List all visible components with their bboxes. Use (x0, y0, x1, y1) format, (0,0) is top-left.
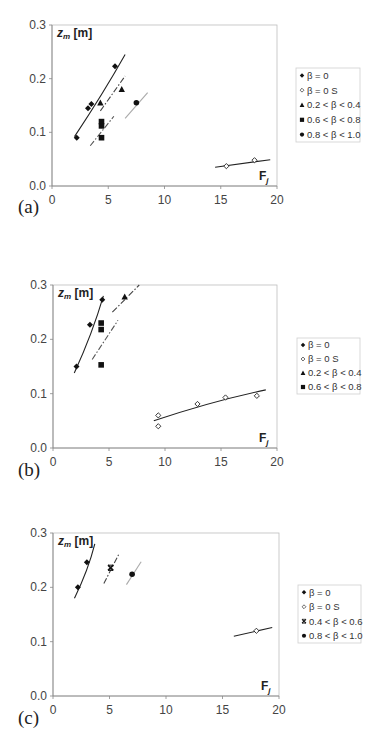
y-tick-label: 0.1 (30, 387, 47, 401)
data-point (254, 393, 259, 398)
y-tick-label: 0.2 (29, 72, 46, 86)
y-axis-label: zm [m] (57, 534, 93, 549)
fit-line (234, 628, 272, 637)
legend-marker-icon (302, 634, 306, 638)
x-tick-label: 10 (158, 193, 172, 207)
y-tick-label: 0.3 (30, 526, 47, 540)
chart-panel-a: 0.00.10.20.305101520zm [m]Fjβ = 0β = 0 S… (18, 18, 361, 218)
legend-marker (302, 634, 306, 638)
panel-label: (c) (18, 707, 39, 729)
x-tick-label: 20 (270, 455, 284, 469)
x-axis-label: Fj (259, 169, 269, 185)
panel-label: (b) (18, 459, 40, 481)
data-point (98, 320, 104, 326)
data-point (87, 322, 93, 328)
x-tick-label: 10 (159, 703, 173, 717)
x-tick-label: 0 (49, 193, 56, 207)
legend-marker (300, 118, 304, 122)
fit-line (74, 544, 94, 598)
data-point (129, 571, 135, 577)
data-point (156, 413, 161, 418)
y-tick-label: 0.2 (30, 332, 47, 346)
plot-area (52, 25, 277, 186)
x-tick-label: 5 (106, 703, 113, 717)
data-point (99, 297, 105, 303)
y-tick-label: 0.3 (29, 18, 46, 32)
legend-label: β = 0 (309, 587, 331, 598)
y-tick-label: 0.0 (29, 179, 46, 193)
figure: 0.00.10.20.305101520zm [m]Fjβ = 0β = 0 S… (0, 0, 376, 744)
y-tick-label: 0.3 (30, 278, 47, 292)
x-tick-label: 20 (270, 193, 284, 207)
legend-label: 0.6 < β < 0.8 (307, 114, 361, 125)
legend-label: 0.8 < β < 1.0 (309, 630, 363, 641)
chart-panel-c: 0.00.10.20.305101520zm [m]Fjβ = 0β = 0 S… (18, 526, 363, 729)
y-tick-label: 0.0 (30, 689, 47, 703)
legend-marker-icon (300, 133, 304, 137)
x-tick-label: 0 (50, 455, 57, 469)
x-tick-label: 5 (106, 455, 113, 469)
data-point (99, 135, 105, 141)
legend: β = 0β = 0 S0.4 < β < 0.60.8 < β < 1.0 (298, 585, 363, 643)
y-axis-label: zm [m] (56, 26, 92, 41)
y-tick-label: 0.1 (30, 635, 47, 649)
plot-area (53, 533, 279, 696)
fit-line (92, 320, 118, 359)
x-tick-label: 15 (214, 455, 228, 469)
data-point (254, 628, 259, 633)
legend-label: β = 0 S (309, 601, 340, 612)
x-tick-label: 5 (105, 193, 112, 207)
legend: β = 0β = 0 S0.2 < β < 0.40.6 < β < 0.80.… (296, 68, 361, 142)
x-tick-label: 10 (158, 455, 172, 469)
fit-line (154, 390, 266, 421)
legend-label: β = 0 S (307, 85, 338, 96)
legend-label: 0.6 < β < 0.8 (308, 381, 362, 392)
legend-label: 0.2 < β < 0.4 (307, 99, 361, 110)
panel-label: (a) (18, 196, 39, 218)
data-point (88, 101, 94, 107)
legend-marker-icon (301, 385, 305, 389)
legend-label: β = 0 S (308, 353, 339, 364)
y-tick-label: 0.0 (30, 441, 47, 455)
y-axis-label: zm [m] (57, 286, 93, 301)
data-point (98, 362, 104, 368)
data-point (121, 294, 127, 300)
fit-line (100, 76, 125, 111)
x-axis-label: Fj (259, 431, 269, 447)
x-tick-label: 15 (214, 193, 228, 207)
data-point (119, 86, 125, 92)
legend-label: 0.2 < β < 0.4 (308, 367, 362, 378)
legend-marker (300, 133, 304, 137)
data-point (195, 401, 200, 406)
data-point (85, 105, 91, 111)
legend-marker (301, 385, 305, 389)
legend-marker-icon (300, 118, 304, 122)
data-point (156, 424, 161, 429)
data-point (98, 327, 104, 333)
fit-line (74, 296, 103, 373)
y-tick-label: 0.2 (30, 580, 47, 594)
x-tick-label: 20 (272, 703, 286, 717)
legend-label: β = 0 (308, 339, 330, 350)
legend-label: β = 0 (307, 70, 329, 81)
y-tick-label: 0.1 (29, 125, 46, 139)
data-point (99, 123, 105, 129)
legend: β = 0β = 0 S0.2 < β < 0.40.6 < β < 0.8 (297, 338, 362, 394)
legend-label: 0.4 < β < 0.6 (309, 616, 363, 627)
data-point (224, 164, 229, 169)
data-point (134, 100, 140, 106)
x-tick-label: 0 (50, 703, 57, 717)
x-axis-label: Fj (261, 679, 271, 695)
plot-area (53, 285, 277, 448)
legend-label: 0.8 < β < 1.0 (307, 129, 361, 140)
x-tick-label: 15 (216, 703, 230, 717)
chart-panel-b: 0.00.10.20.305101520zm [m]Fjβ = 0β = 0 S… (18, 278, 362, 481)
